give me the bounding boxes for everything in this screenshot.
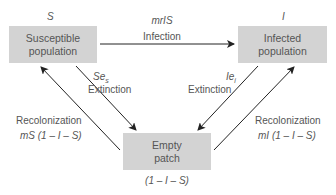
recolonization-i-label: Recolonization bbox=[255, 115, 321, 127]
empty-patch-expression: (1 – I – S) bbox=[141, 175, 193, 187]
empty-label-line2: patch bbox=[152, 152, 182, 165]
infection-rate: mrIS bbox=[142, 15, 182, 27]
recolonization-s-label: Recolonization bbox=[16, 115, 82, 127]
extinction-i-label: Extinction bbox=[188, 84, 231, 96]
empty-label-line1: Empty bbox=[152, 139, 182, 152]
extinction-s-label: Extinction bbox=[88, 84, 131, 96]
susceptible-population-box: Susceptible population bbox=[9, 26, 97, 63]
infected-population-box: Infected population bbox=[238, 26, 327, 63]
infected-label-line2: population bbox=[258, 45, 306, 58]
extinction-s-rate-sub: s bbox=[105, 77, 109, 84]
infected-label-line1: Infected bbox=[258, 32, 306, 45]
extinction-i-rate-sub: i bbox=[234, 77, 236, 84]
extinction-s-rate-main: Se bbox=[93, 71, 105, 82]
recolonization-s-rate: mS (1 – I – S) bbox=[20, 130, 82, 142]
susceptible-symbol: S bbox=[47, 11, 54, 23]
susceptible-label-line1: Susceptible bbox=[26, 32, 80, 45]
infected-symbol: I bbox=[282, 11, 285, 23]
empty-patch-box: Empty patch bbox=[123, 133, 211, 170]
recolonization-i-rate: mI (1 – I – S) bbox=[258, 130, 316, 142]
susceptible-label-line2: population bbox=[26, 45, 80, 58]
infection-label: Infection bbox=[137, 31, 187, 43]
